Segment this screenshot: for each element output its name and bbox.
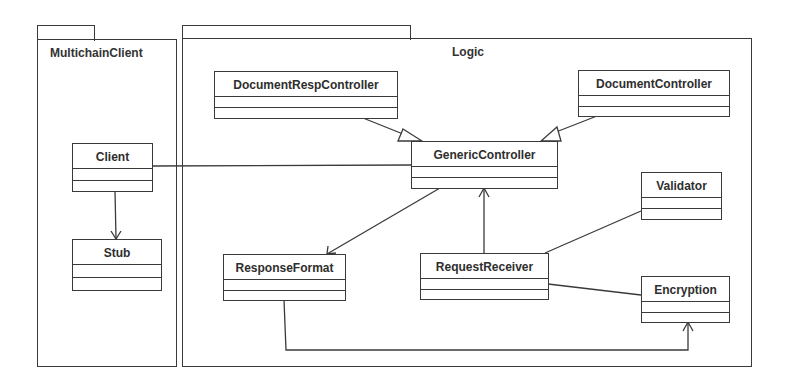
- class-name: Client: [73, 144, 152, 168]
- class-name: ResponseFormat: [224, 255, 345, 279]
- class-methods-section: [579, 106, 729, 117]
- package-title-multichainclient: MultichainClient: [50, 46, 143, 60]
- class-name: RequestReceiver: [421, 254, 548, 278]
- uml-diagram-canvas: MultichainClient Logic: [0, 0, 787, 383]
- class-responseformat[interactable]: ResponseFormat: [223, 254, 346, 301]
- class-methods-section: [224, 290, 345, 301]
- class-attributes-section: [224, 279, 345, 290]
- class-requestreceiver[interactable]: RequestReceiver: [420, 253, 549, 300]
- class-attributes-section: [642, 197, 721, 208]
- class-attributes-section: [421, 278, 548, 289]
- class-attributes-section: [642, 301, 729, 312]
- class-documentcontroller[interactable]: DocumentController: [578, 70, 730, 117]
- class-methods-section: [642, 208, 721, 219]
- class-methods-section: [412, 177, 557, 188]
- package-multichainclient[interactable]: [37, 39, 177, 367]
- class-encryption[interactable]: Encryption: [641, 276, 730, 323]
- class-methods-section: [642, 312, 729, 323]
- class-name: Validator: [642, 173, 721, 197]
- class-attributes-section: [73, 168, 152, 180]
- class-client[interactable]: Client: [72, 143, 153, 192]
- package-title-logic: Logic: [452, 45, 484, 59]
- class-methods-section: [73, 277, 161, 290]
- class-name: GenericController: [412, 142, 557, 166]
- class-name: DocumentController: [579, 71, 729, 95]
- class-methods-section: [73, 180, 152, 192]
- class-name: DocumentRespController: [215, 72, 397, 96]
- class-methods-section: [215, 107, 397, 118]
- class-genericcontroller[interactable]: GenericController: [411, 141, 558, 189]
- class-validator[interactable]: Validator: [641, 172, 722, 220]
- class-attributes-section: [412, 166, 557, 177]
- class-name: Stub: [73, 240, 161, 264]
- class-name: Encryption: [642, 277, 729, 301]
- class-attributes-section: [73, 264, 161, 277]
- class-methods-section: [421, 289, 548, 300]
- class-documentrespcontroller[interactable]: DocumentRespController: [214, 71, 398, 119]
- class-stub[interactable]: Stub: [72, 239, 162, 291]
- class-attributes-section: [579, 95, 729, 106]
- class-attributes-section: [215, 96, 397, 107]
